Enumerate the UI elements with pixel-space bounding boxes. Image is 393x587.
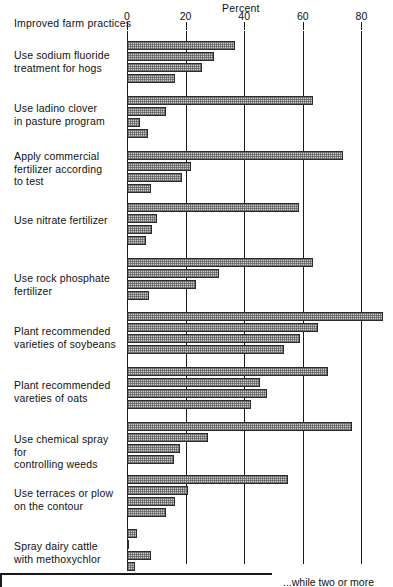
bar <box>127 323 318 332</box>
bar <box>127 129 148 138</box>
category-label-line: fertilizer <box>14 285 124 298</box>
caption-box-top-rule <box>0 573 272 575</box>
category-label-line: Plant recommended <box>14 325 124 338</box>
bar <box>127 540 129 549</box>
category-label: Plant recommendedvareties of oats <box>14 379 124 404</box>
category-label-line: Use ladino clover <box>14 102 124 115</box>
bar <box>127 367 328 376</box>
category-label-line: with methoxychlor <box>14 553 124 566</box>
caption-box-left-rule <box>0 573 2 587</box>
bar <box>127 74 175 83</box>
bar <box>127 529 137 538</box>
chart-category-axis-title: Improved farm practices <box>14 17 131 29</box>
bar <box>127 269 219 278</box>
value-axis-tick-label: 60 <box>297 10 309 22</box>
category-label: Spray dairy cattlewith methoxychlor <box>14 540 124 565</box>
category-label-line: treatment for hogs <box>14 62 124 75</box>
category-label-line: Use chemical spray for <box>14 433 124 458</box>
value-axis-tick-mark <box>127 22 128 30</box>
value-axis-tick-label: 20 <box>180 10 192 22</box>
bar <box>127 562 135 571</box>
category-label-line: fertilizer according <box>14 163 124 176</box>
caption-text: ...while two or more <box>283 576 374 587</box>
bar <box>127 203 299 212</box>
category-label-line: Use sodium fluoride <box>14 49 124 62</box>
category-label-line: controlling weeds <box>14 458 124 471</box>
value-axis-tick-label: 0 <box>124 10 130 22</box>
category-label-line: on the contour <box>14 500 124 513</box>
value-axis-tick-mark <box>303 22 304 30</box>
category-label-line: Spray dairy cattle <box>14 540 124 553</box>
bar <box>127 236 146 245</box>
bar <box>127 334 300 343</box>
bar <box>127 52 214 61</box>
bar <box>127 291 149 300</box>
category-label-line: Use nitrate fertilizer <box>14 214 124 227</box>
grid-line <box>244 31 245 564</box>
bar <box>127 312 383 321</box>
category-label: Apply commercialfertilizer accordingto t… <box>14 150 124 188</box>
category-label-line: Use terraces or plow <box>14 487 124 500</box>
category-label-line: in pasture program <box>14 115 124 128</box>
value-axis-tick-mark <box>361 22 362 30</box>
plot-area: 020406080 <box>127 31 393 564</box>
category-label: Use ladino cloverin pasture program <box>14 102 124 127</box>
bar <box>127 184 151 193</box>
bar <box>127 475 288 484</box>
grid-line <box>361 31 362 564</box>
bar <box>127 63 202 72</box>
bar <box>127 422 352 431</box>
value-axis-tick-mark <box>186 22 187 30</box>
bar <box>127 162 191 171</box>
bar <box>127 400 251 409</box>
bar <box>127 225 152 234</box>
bar <box>127 107 166 116</box>
bar <box>127 96 313 105</box>
bar <box>127 214 157 223</box>
bar <box>127 486 188 495</box>
category-label-line: varieties of soybeans <box>14 338 124 351</box>
value-axis-tick-mark <box>244 22 245 30</box>
bar-chart: Percent Improved farm practices 02040608… <box>0 0 393 587</box>
bar <box>127 258 313 267</box>
bar <box>127 41 235 50</box>
bar <box>127 551 151 560</box>
value-axis-tick-label: 80 <box>356 10 368 22</box>
bar <box>127 118 140 127</box>
category-label-line: Use rock phosphate <box>14 272 124 285</box>
category-label: Use chemical spray forcontrolling weeds <box>14 433 124 471</box>
bar <box>127 389 267 398</box>
bar <box>127 455 174 464</box>
grid-line <box>186 31 187 564</box>
category-label: Use terraces or plowon the contour <box>14 487 124 512</box>
bar <box>127 173 182 182</box>
bar <box>127 508 166 517</box>
grid-line <box>303 31 304 564</box>
category-label: Plant recommendedvarieties of soybeans <box>14 325 124 350</box>
bar <box>127 444 180 453</box>
category-label-line: to test <box>14 175 124 188</box>
category-label: Use sodium fluoridetreatment for hogs <box>14 49 124 74</box>
category-label-line: vareties of oats <box>14 392 124 405</box>
bar <box>127 151 343 160</box>
category-label: Use nitrate fertilizer <box>14 214 124 227</box>
bar <box>127 345 284 354</box>
bar <box>127 280 196 289</box>
value-axis-tick-label: 40 <box>238 10 250 22</box>
bar <box>127 497 175 506</box>
bar <box>127 378 260 387</box>
category-label-line: Apply commercial <box>14 150 124 163</box>
category-label-line: Plant recommended <box>14 379 124 392</box>
bar <box>127 433 208 442</box>
category-label: Use rock phosphatefertilizer <box>14 272 124 297</box>
